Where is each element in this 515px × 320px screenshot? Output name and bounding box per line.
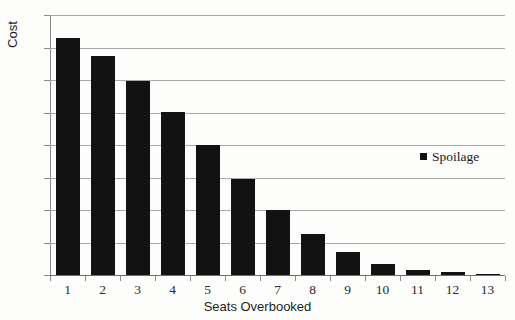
- gridline-70: [50, 48, 505, 49]
- filled-square-marker-icon: [420, 153, 427, 160]
- bar-2: [91, 56, 115, 275]
- x-tick-label-13: 13: [471, 283, 505, 297]
- x-tick-1: [50, 276, 51, 281]
- spoilage-cost-bar-chart: Cost 01020304050607080 12345678910111213…: [0, 0, 515, 320]
- bar-3: [126, 81, 150, 275]
- bar-5: [196, 145, 220, 275]
- x-tick-label-3: 3: [121, 283, 155, 297]
- bar-1: [56, 38, 80, 275]
- x-tick-8: [295, 276, 296, 281]
- y-axis-title: Cost: [6, 5, 19, 65]
- x-tick-label-6: 6: [226, 283, 260, 297]
- x-tick-10: [365, 276, 366, 281]
- bar-7: [266, 210, 290, 275]
- x-tick-label-10: 10: [366, 283, 400, 297]
- x-axis-line: [50, 275, 505, 276]
- x-tick-label-11: 11: [401, 283, 435, 297]
- x-tick-5: [190, 276, 191, 281]
- x-tick-9: [330, 276, 331, 281]
- bar-6: [231, 179, 255, 275]
- bar-8: [301, 234, 325, 275]
- gridline-80: [50, 15, 505, 16]
- legend-entry-label: Spoilage: [432, 150, 479, 164]
- x-tick-end: [505, 276, 506, 281]
- gridline-50: [50, 113, 505, 114]
- x-tick-label-5: 5: [191, 283, 225, 297]
- x-tick-2: [85, 276, 86, 281]
- gridline-60: [50, 80, 505, 81]
- x-tick-label-1: 1: [51, 283, 85, 297]
- x-tick-label-2: 2: [86, 283, 120, 297]
- x-axis-title: Seats Overbooked: [0, 300, 515, 313]
- bar-4: [161, 112, 185, 275]
- x-tick-label-9: 9: [331, 283, 365, 297]
- chart-legend: Spoilage: [420, 150, 479, 164]
- x-tick-12: [435, 276, 436, 281]
- x-tick-6: [225, 276, 226, 281]
- bar-9: [336, 252, 360, 275]
- x-tick-4: [155, 276, 156, 281]
- plot-area: [50, 15, 505, 275]
- x-tick-3: [120, 276, 121, 281]
- x-tick-7: [260, 276, 261, 281]
- x-tick-label-4: 4: [156, 283, 190, 297]
- x-tick-11: [400, 276, 401, 281]
- gridline-40: [50, 145, 505, 146]
- x-tick-13: [470, 276, 471, 281]
- x-tick-label-12: 12: [436, 283, 470, 297]
- x-tick-label-7: 7: [261, 283, 295, 297]
- gridline-30: [50, 178, 505, 179]
- bar-10: [371, 264, 395, 275]
- x-tick-label-8: 8: [296, 283, 330, 297]
